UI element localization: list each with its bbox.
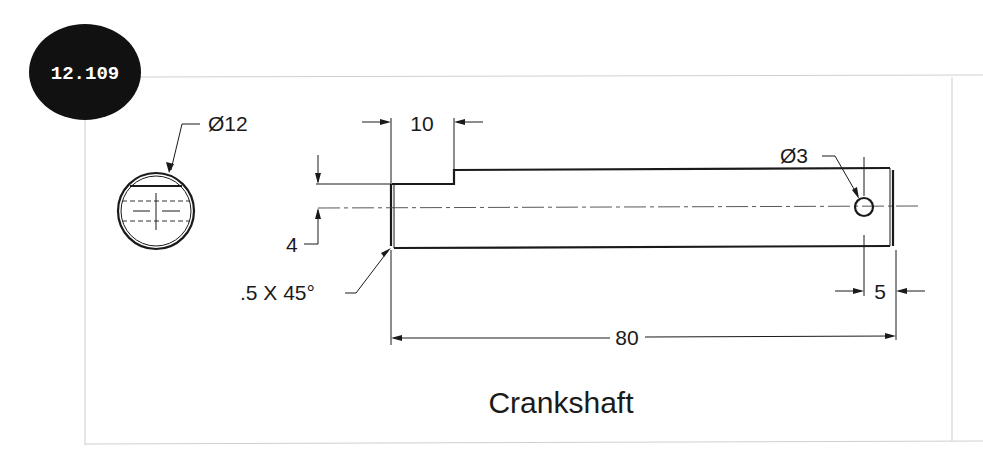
shaft-bottom-edge [394,246,890,248]
dim-5-right-arrow [896,288,907,294]
diameter-leader [171,124,200,170]
frame-top-border [140,75,983,77]
chamfer-leader [345,251,388,293]
dim-4-bottom-leader [304,210,318,244]
frame-bottom-border [85,441,983,444]
problem-number-badge: 12.109 [29,24,141,120]
chamfer-arrow [381,248,391,257]
drawing-title: Crankshaft [488,386,634,419]
hole-diameter-label: Ø3 [780,144,808,167]
shaft-top-edge [392,168,890,184]
hole-offset-label: 5 [874,280,886,303]
side-view: 10 4 .5 X 45° Ø3 5 80 [240,112,925,349]
dim-5-left-arrow [853,288,864,294]
shaft-centerline [318,206,918,208]
diameter-label: Ø12 [208,112,248,135]
dim-4-top-arrow [315,173,321,184]
cross-hole [855,198,873,216]
step-length-label: 10 [410,112,433,135]
chamfer-label: .5 X 45° [240,281,315,304]
dim-80-right-line [645,336,893,337]
dim-4-bottom-arrow [315,208,321,219]
dim-80-right-arrow [885,333,896,339]
technical-drawing: 12.109 Ø12 10 [0,0,983,468]
dim-10-left-arrow [380,119,391,125]
hole-leader-arrow [852,187,859,199]
overall-length-label: 80 [615,326,638,349]
end-view: Ø12 [118,112,248,249]
badge-label: 12.109 [51,63,119,85]
dim-80-left-arrow [391,335,402,341]
flat-depth-label: 4 [286,233,298,256]
dim-10-right-arrow [454,119,465,125]
